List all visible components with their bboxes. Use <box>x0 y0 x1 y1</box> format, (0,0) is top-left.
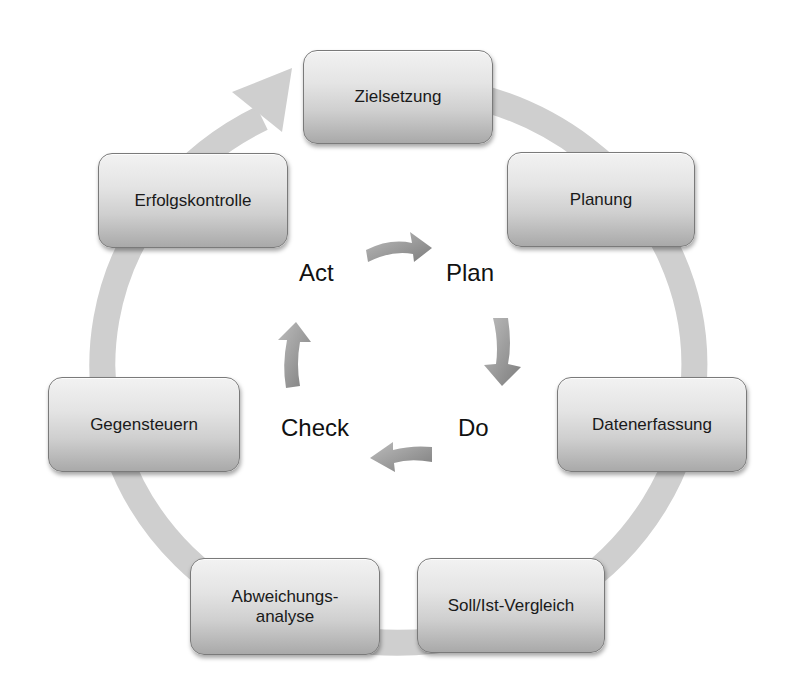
arrow-act-to-plan-icon <box>366 232 432 262</box>
step-gegensteuern: Gegensteuern <box>48 377 240 472</box>
step-datenerfassung: Datenerfassung <box>557 377 747 472</box>
arrow-plan-to-do-icon <box>484 318 521 386</box>
step-datenerfassung-label: Datenerfassung <box>592 415 712 435</box>
pdca-act-label: Act <box>299 259 334 287</box>
step-abweichungsanalyse: Abweichungs- analyse <box>190 558 380 655</box>
pdca-do-label: Do <box>458 414 489 442</box>
step-soll-ist-vergleich-label: Soll/Ist-Vergleich <box>448 596 575 616</box>
arrow-do-to-check-icon <box>370 442 432 472</box>
step-erfolgskontrolle-label: Erfolgskontrolle <box>134 191 251 211</box>
pdca-check-label: Check <box>281 414 349 442</box>
step-abweichungsanalyse-label: Abweichungs- analyse <box>232 587 339 627</box>
arrow-check-to-act-icon <box>278 322 311 388</box>
pdca-plan-label: Plan <box>446 259 494 287</box>
step-planung-label: Planung <box>570 190 632 210</box>
step-erfolgskontrolle: Erfolgskontrolle <box>98 153 288 248</box>
pdca-cycle-diagram: Zielsetzung Planung Datenerfassung Soll/… <box>0 0 787 700</box>
step-zielsetzung: Zielsetzung <box>303 50 493 144</box>
step-gegensteuern-label: Gegensteuern <box>90 415 198 435</box>
step-zielsetzung-label: Zielsetzung <box>355 87 442 107</box>
step-planung: Planung <box>507 152 695 247</box>
step-soll-ist-vergleich: Soll/Ist-Vergleich <box>417 558 605 653</box>
